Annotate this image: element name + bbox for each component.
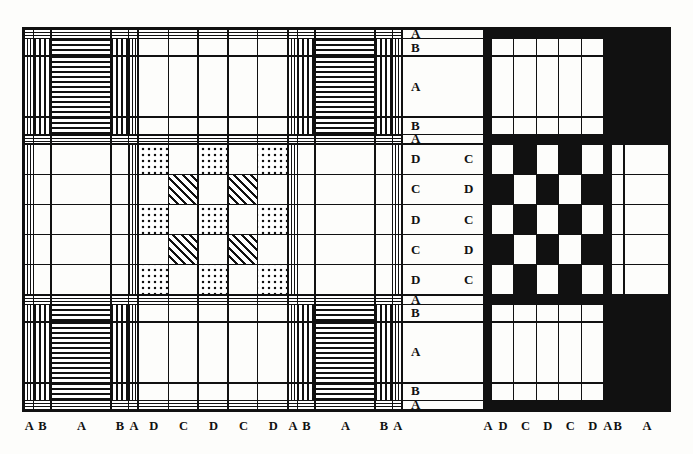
left-cell-r1-c13 <box>375 39 393 57</box>
bottom-right-axis-label-1: D <box>498 420 507 433</box>
bottom-left-axis-label-0: A <box>25 420 34 433</box>
left-cell-r3-c1 <box>34 117 52 135</box>
bottom-left-axis-label-4: A <box>129 420 138 433</box>
right-cell-r8-c5 <box>581 235 603 265</box>
right-vgrid-heavy-0 <box>483 29 485 410</box>
right-cell-r8-c1 <box>491 235 513 265</box>
bottom-left-axis-label-11: B <box>302 420 310 433</box>
left-vgrid-14 <box>392 29 393 410</box>
right-cell-r6-c5 <box>581 174 603 204</box>
left-vgrid-4 <box>128 29 129 410</box>
left-vgrid-heavy-10 <box>287 29 289 410</box>
left-vgrid-heavy-13 <box>374 29 376 410</box>
left-cell-r12-c1 <box>34 322 52 382</box>
right-cell-r11-c8 <box>624 304 669 322</box>
right-vgrid-5 <box>581 29 582 410</box>
frame-top <box>22 27 671 29</box>
right-cell-r8-c3 <box>536 235 558 265</box>
right-cell-r6-c3 <box>536 174 558 204</box>
left-cell-r13-c2 <box>51 383 111 401</box>
left-cell-r2-c13 <box>375 56 393 116</box>
left-cell-r2-c11 <box>297 56 315 116</box>
row-label-4: A <box>411 132 420 145</box>
right-vgrid-heavy-8 <box>623 29 625 410</box>
row-label-inner-6: D <box>464 182 473 195</box>
row-label-inner-9: C <box>464 273 473 286</box>
left-cell-r1-c12 <box>315 39 375 57</box>
right-hgrid-11 <box>402 304 669 305</box>
row-label-8: C <box>411 243 420 256</box>
left-cell-r3-c11 <box>297 117 315 135</box>
right-cell-r3-c7 <box>611 117 624 135</box>
row-label-2: A <box>411 80 420 93</box>
left-vgrid-11 <box>297 29 298 410</box>
bottom-left-axis-label-13: B <box>380 420 388 433</box>
row-label-1: B <box>411 41 420 54</box>
right-cell-r1-c7 <box>611 39 624 57</box>
right-hgrid-heavy-13 <box>402 382 669 384</box>
left-cell-r5-c5 <box>138 144 168 174</box>
left-cell-r12-c3 <box>111 322 129 382</box>
row-label-7: D <box>411 213 420 226</box>
left-cell-r3-c2 <box>51 117 111 135</box>
left-vgrid-1 <box>33 29 34 410</box>
row-label-9: D <box>411 273 420 286</box>
left-cell-r9-c9 <box>258 265 288 295</box>
right-vgrid-heavy-1 <box>490 29 492 410</box>
left-hgrid-4 <box>24 134 402 135</box>
right-vgrid-3 <box>536 29 537 410</box>
right-cell-r7-c2 <box>514 204 536 234</box>
right-cell-r13-c7 <box>611 383 624 401</box>
right-hgrid-6 <box>402 174 669 175</box>
left-hgrid-heavy-12 <box>24 321 402 323</box>
right-cell-r11-c7 <box>611 304 624 322</box>
row-label-6: C <box>411 182 420 195</box>
left-cell-r6-c6 <box>168 174 198 204</box>
left-cell-r6-c8 <box>228 174 258 204</box>
row-label-11: B <box>411 306 420 319</box>
bottom-left-axis-label-8: C <box>239 420 248 433</box>
bottom-right-axis-label-7: B <box>613 420 621 433</box>
left-cell-r2-c12 <box>315 56 375 116</box>
right-hgrid-1 <box>402 38 669 39</box>
left-cell-r11-c11 <box>297 304 315 322</box>
left-cell-r2-c2 <box>51 56 111 116</box>
left-hgrid-heavy-5 <box>24 143 402 145</box>
right-vgrid-4 <box>558 29 559 410</box>
left-hgrid-8 <box>24 234 402 235</box>
bottom-right-axis-label-4: C <box>566 420 575 433</box>
right-hgrid-4 <box>402 134 669 135</box>
left-vgrid-heavy-12 <box>314 29 316 410</box>
right-hgrid-heavy-3 <box>402 116 669 118</box>
left-cell-r1-c11 <box>297 39 315 57</box>
left-cell-r3-c3 <box>111 117 129 135</box>
left-hgrid-heavy-2 <box>24 55 402 57</box>
left-hgrid-heavy-10 <box>24 294 402 296</box>
bottom-right-axis-label-3: D <box>543 420 552 433</box>
left-cell-r2-c3 <box>111 56 129 116</box>
left-vgrid-heavy-5 <box>137 29 139 410</box>
right-cell-r3-c8 <box>624 117 669 135</box>
right-hgrid-8 <box>402 234 669 235</box>
bottom-right-axis-label-0: A <box>484 420 493 433</box>
right-cell-r9-c4 <box>559 265 581 295</box>
bottom-left-axis-label-9: D <box>269 420 278 433</box>
left-hgrid-6 <box>24 174 402 175</box>
row-label-inner-5: C <box>464 152 473 165</box>
left-hgrid-heavy-13 <box>24 382 402 384</box>
left-cell-r1-c2 <box>51 39 111 57</box>
bottom-left-axis-label-1: B <box>38 420 46 433</box>
left-cell-r12-c2 <box>51 322 111 382</box>
right-cell-r6-c1 <box>491 174 513 204</box>
bottom-right-axis-label-2: C <box>521 420 530 433</box>
right-vgrid-heavy-6 <box>603 29 605 410</box>
bottom-left-axis-label-3: B <box>116 420 124 433</box>
left-vgrid-7 <box>197 29 198 410</box>
left-cell-r11-c2 <box>51 304 111 322</box>
left-cell-r2-c1 <box>34 56 52 116</box>
left-hgrid-11 <box>24 304 402 305</box>
right-gutter-left-edge <box>401 29 403 410</box>
left-hgrid-1 <box>24 38 402 39</box>
right-cell-r1-c8 <box>624 39 669 57</box>
row-label-inner-7: C <box>464 213 473 226</box>
